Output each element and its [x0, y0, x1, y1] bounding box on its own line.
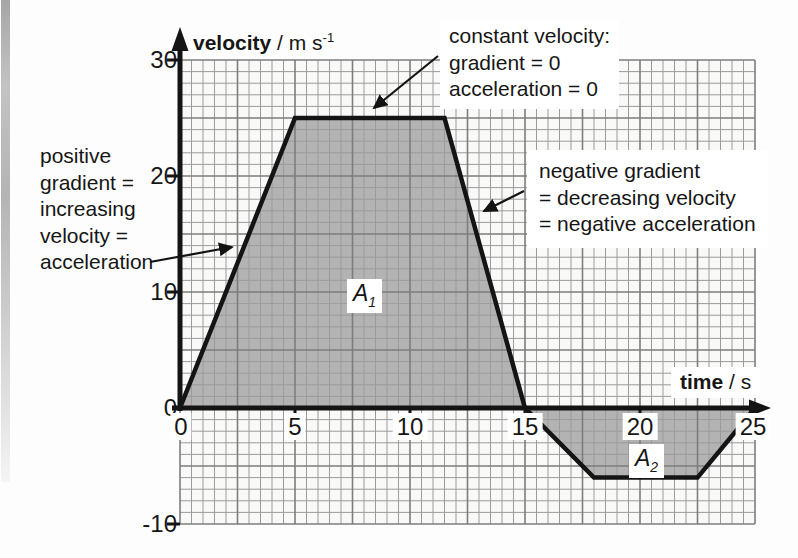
annotation-line: = negative acceleration	[539, 211, 756, 238]
area-label-a1-subscript: 1	[368, 294, 376, 310]
annotation-positive-gradient: positive gradient = increasing velocity …	[40, 143, 153, 276]
annotation-line: increasing	[40, 196, 153, 223]
y-axis-title-text: velocity	[193, 31, 271, 54]
annotation-line: acceleration	[40, 249, 153, 276]
x-axis-title-text: time	[680, 370, 723, 393]
area-label-a2-letter: A	[635, 445, 650, 471]
annotation-line: = decreasing velocity	[539, 185, 756, 212]
x-tick-label-5: 5	[284, 413, 305, 440]
area-label-a2-subscript: 2	[650, 459, 658, 475]
x-tick-label-10: 10	[393, 413, 428, 440]
annotation-constant-velocity: constant velocity: gradient = 0 accelera…	[440, 20, 619, 109]
x-axis-title-units: / s	[723, 370, 751, 393]
x-axis-title: time / s	[671, 367, 760, 398]
y-axis-title-units-exponent: -1	[323, 30, 335, 45]
y-axis-title-units: / m s	[271, 31, 322, 54]
annotation-line: gradient =	[40, 170, 153, 197]
annotation-line: gradient = 0	[449, 50, 610, 77]
y-tick-label-0: 0	[107, 393, 177, 423]
annotation-line: velocity =	[40, 223, 153, 250]
x-tick-label-20: 20	[623, 413, 658, 440]
annotation-line: acceleration = 0	[449, 76, 610, 103]
y-tick-label-30: 30	[107, 45, 177, 75]
x-tick-label-0: 0	[170, 413, 191, 440]
annotation-line: positive	[40, 143, 153, 170]
annotation-line: constant velocity:	[449, 23, 610, 50]
area-label-a1: A1	[347, 279, 382, 313]
y-tick-label-neg10: -10	[107, 509, 177, 539]
y-axis-title: velocity / m s-1	[193, 30, 334, 55]
annotation-line: negative gradient	[539, 158, 756, 185]
area-label-a2: A2	[629, 444, 664, 478]
annotation-negative-gradient: negative gradient = decreasing velocity …	[527, 150, 768, 248]
x-tick-label-25: 25	[736, 413, 771, 440]
x-tick-label-15: 15	[508, 413, 543, 440]
y-tick-label-10: 10	[107, 277, 177, 307]
velocity-time-graph-figure: velocity / m s-1 time / s 30 20 10 0 -10…	[0, 0, 798, 558]
area-label-a1-letter: A	[353, 280, 368, 306]
